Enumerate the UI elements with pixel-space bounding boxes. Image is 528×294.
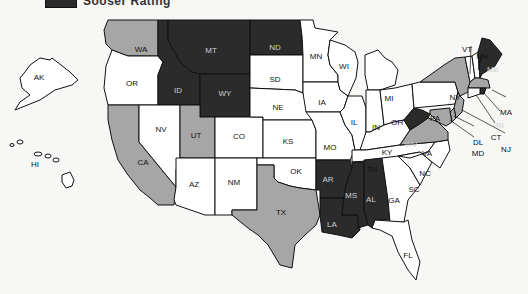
label-MN: MN — [310, 52, 323, 61]
state-OR[interactable] — [104, 50, 163, 105]
label-MS: MS — [345, 191, 357, 200]
label-UT: UT — [191, 131, 202, 140]
label-CO: CO — [233, 132, 245, 141]
label-LA: LA — [327, 220, 337, 229]
label-NY: NY — [449, 93, 461, 102]
label-WI: WI — [339, 62, 349, 71]
label-MD: MD — [472, 149, 485, 158]
label-NM: NM — [228, 178, 241, 187]
label-MA: MA — [500, 108, 513, 117]
label-AZ: AZ — [189, 180, 199, 189]
label-KY: KY — [382, 148, 393, 157]
label-WV: WV — [405, 140, 419, 149]
label-AL: AL — [366, 195, 376, 204]
label-NV: NV — [155, 125, 167, 134]
label-ME: ME — [487, 65, 499, 74]
state-CT[interactable] — [468, 88, 480, 98]
label-IL: IL — [351, 118, 358, 127]
label-NC: NC — [419, 169, 431, 178]
label-FL: FL — [403, 251, 413, 260]
label-MT: MT — [205, 46, 217, 55]
us-map: AK HI WA OR CA ID NV MT WY UT AZ CO NM N… — [0, 0, 528, 294]
label-WA: WA — [135, 45, 148, 54]
label-NH: NH — [476, 52, 488, 61]
label-AR: AR — [322, 175, 333, 184]
label-NJ: NJ — [501, 145, 511, 154]
state-FL[interactable] — [372, 220, 420, 280]
label-ID: ID — [174, 86, 182, 95]
label-IN: IN — [372, 123, 380, 132]
label-VT: VT — [462, 45, 472, 54]
label-GA: GA — [388, 196, 400, 205]
label-DL: DL — [473, 138, 484, 147]
label-CT: CT — [491, 133, 502, 142]
label-PA: PA — [430, 114, 441, 123]
label-OK: OK — [290, 167, 302, 176]
label-TX: TX — [276, 208, 287, 217]
label-ND: ND — [269, 43, 281, 52]
label-SC: SC — [408, 185, 419, 194]
label-KS: KS — [283, 137, 294, 146]
label-AK: AK — [34, 73, 45, 82]
label-TN: TN — [367, 165, 378, 174]
state-HI[interactable] — [10, 140, 74, 188]
label-CA: CA — [137, 158, 149, 167]
label-IA: IA — [318, 98, 326, 107]
label-HI: HI — [31, 160, 39, 169]
label-VA: VA — [422, 149, 433, 158]
state-RI[interactable] — [480, 88, 486, 94]
label-MO: MO — [324, 143, 337, 152]
state-AK[interactable] — [15, 58, 78, 110]
label-OH: OH — [391, 118, 403, 127]
label-MI: MI — [385, 94, 394, 103]
state-SD[interactable] — [250, 55, 303, 93]
label-SD: SD — [269, 75, 280, 84]
state-MI[interactable] — [365, 50, 398, 90]
label-OR: OR — [126, 79, 138, 88]
label-RI: RI — [496, 121, 504, 130]
label-NE: NE — [272, 103, 283, 112]
label-WY: WY — [219, 89, 233, 98]
